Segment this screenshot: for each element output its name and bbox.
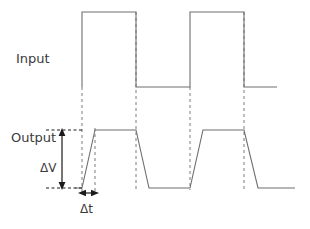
guide-lines-group	[82, 12, 244, 193]
waveform-diagram: Input Output ΔV Δt	[0, 0, 310, 229]
output-waveform-trace	[75, 130, 295, 188]
output-waveform-group	[75, 130, 295, 188]
input-waveform-trace	[82, 12, 277, 87]
delta-v-arrowhead-down	[59, 182, 66, 190]
labels-group: Input Output ΔV Δt	[11, 51, 93, 216]
input-label: Input	[16, 51, 50, 66]
delta-v-arrowhead-up	[59, 128, 66, 136]
waveform-canvas: Input Output ΔV Δt	[0, 0, 310, 229]
delta-v-label: ΔV	[40, 161, 57, 175]
input-waveform-group	[82, 12, 277, 87]
delta-t-dimension-group	[78, 190, 99, 196]
output-label: Output	[11, 130, 56, 145]
delta-t-label: Δt	[80, 202, 93, 216]
